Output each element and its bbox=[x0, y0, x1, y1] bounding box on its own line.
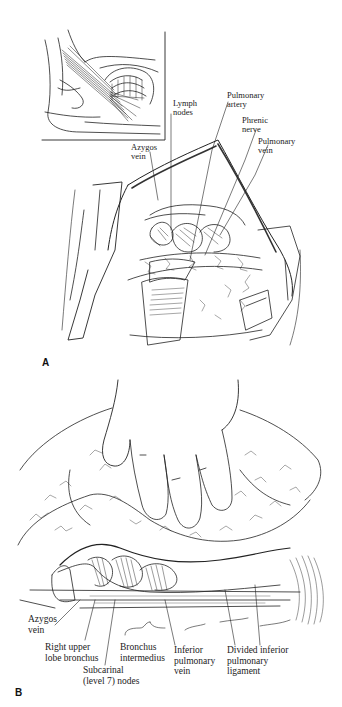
label-azygos-vein-b: Azygos vein bbox=[28, 614, 57, 635]
surgical-illustration-figure: Lymph nodes Pulmonary artery Phrenic ner… bbox=[0, 0, 342, 707]
label-subcarinal-nodes: Subcarinal (level 7) nodes bbox=[83, 665, 139, 686]
label-bronchus-intermedius: Bronchus intermedius bbox=[120, 642, 165, 663]
inset-patient-position-drawing bbox=[42, 30, 165, 140]
label-divided-inferior-pulmonary-ligament: Divided inferior pulmonary ligament bbox=[227, 645, 288, 677]
label-pulmonary-artery: Pulmonary artery bbox=[227, 91, 264, 109]
panel-letter-b: B bbox=[15, 687, 22, 698]
label-leader-lines bbox=[55, 102, 290, 665]
panel-a-thoracotomy-drawing bbox=[62, 140, 301, 345]
label-azygos-vein-a: Azygos vein bbox=[131, 143, 157, 161]
illustration-artwork bbox=[0, 0, 342, 707]
label-inferior-pulmonary-vein: Inferior pulmonary vein bbox=[174, 645, 215, 677]
label-right-upper-lobe-bronchus: Right upper lobe bronchus bbox=[45, 642, 99, 663]
label-lymph-nodes: Lymph nodes bbox=[173, 99, 197, 117]
panel-b-retraction-drawing bbox=[18, 380, 323, 624]
label-phrenic-nerve: Phrenic nerve bbox=[242, 116, 268, 134]
label-pulmonary-vein: Pulmonary vein bbox=[258, 137, 295, 155]
panel-letter-a: A bbox=[42, 357, 49, 368]
